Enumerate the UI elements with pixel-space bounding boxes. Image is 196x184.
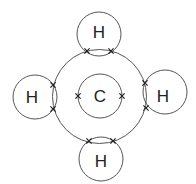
carbon-label: C [94, 87, 106, 106]
hydrogen-label-bottom: H [95, 152, 107, 171]
hydrogen-label-left: H [26, 88, 38, 107]
atom-labels: CHHHH [26, 23, 169, 171]
shared-electron-cross-icon [50, 106, 55, 111]
hydrogen-label-right: H [157, 87, 169, 106]
hydrogen-label-top: H [93, 23, 105, 42]
methane-diagram: CHHHH [0, 0, 196, 184]
